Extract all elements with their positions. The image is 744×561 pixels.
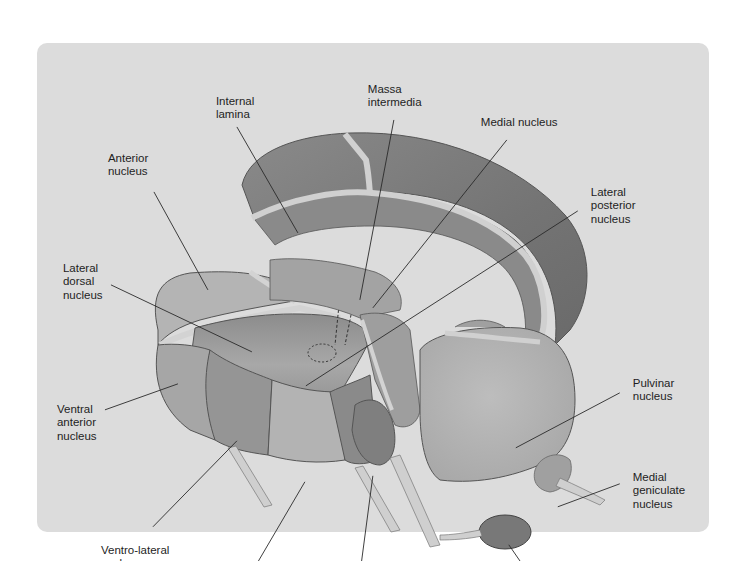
label-lateral-dorsal-nucleus: Lateral dorsal nucleus xyxy=(63,262,103,303)
lateral-geniculate-shape xyxy=(479,515,531,549)
leader-line-ventral-posterior-nucleus xyxy=(244,482,305,561)
label-internal-lamina: Internal lamina xyxy=(216,95,254,122)
leader-line-ventro-lateral-nucleus xyxy=(153,441,237,527)
label-anterior-nucleus: Anterior nucleus xyxy=(108,152,148,179)
label-lateral-posterior-nucleus: Lateral posterior nucleus xyxy=(591,186,636,227)
label-massa-intermedia: Massa intermedia xyxy=(368,83,422,110)
label-pulvinar-nucleus: Pulvinar nucleus xyxy=(633,377,675,404)
label-ventral-anterior-nucleus: Ventral anterior nucleus xyxy=(57,403,97,444)
label-medial-nucleus: Medial nucleus xyxy=(481,116,558,130)
medial-nucleus-arc xyxy=(242,133,587,345)
label-ventro-lateral-nucleus: Ventro-lateral nucleus xyxy=(101,544,169,561)
label-medial-geniculate-nucleus: Medial geniculate nucleus xyxy=(633,471,685,512)
